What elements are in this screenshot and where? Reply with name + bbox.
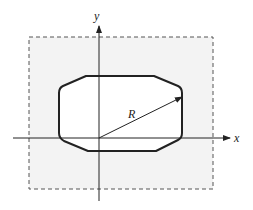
y-axis-label: y — [93, 9, 100, 23]
diagram-canvas: x y R — [0, 0, 253, 210]
radius-label: R — [127, 107, 136, 121]
x-axis-label: x — [233, 131, 240, 145]
inner-shape — [59, 76, 182, 151]
